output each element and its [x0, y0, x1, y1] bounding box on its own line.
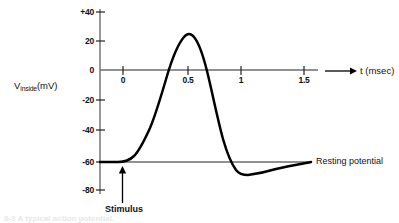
- y-tick-label-20: 20: [60, 37, 94, 46]
- x-tick-label-1: 1: [229, 76, 253, 85]
- y-axis-title: Vinside(mV): [14, 81, 57, 93]
- y-tick-label-neg80: -80: [60, 186, 94, 195]
- resting-potential-label: Resting potential: [316, 157, 383, 166]
- action-potential-curve: [100, 34, 311, 175]
- y-tick-label-0: 0: [60, 66, 94, 75]
- y-axis-title-subscript: inside: [20, 85, 37, 92]
- x-axis-arrow-icon: [325, 68, 357, 75]
- y-tick-label-neg40: -40: [60, 126, 94, 135]
- stimulus-arrow-icon: [119, 166, 126, 203]
- y-tick-label-neg20: -20: [60, 96, 94, 105]
- y-tick-label-40: +40: [60, 8, 94, 17]
- x-tick-label-0: 0: [111, 76, 135, 85]
- x-tick-label-0p5: 0.5: [176, 76, 200, 85]
- x-axis-title: t (msec): [360, 66, 394, 76]
- x-tick-label-1p5: 1.5: [292, 76, 316, 85]
- y-tick-label-neg60: -60: [60, 158, 94, 167]
- figure-caption: 8-3 A typical action potential.: [4, 214, 114, 223]
- action-potential-figure: +40 20 0 -20 -40 -60 -80 0 0.5 1 1.5 Vin…: [0, 0, 399, 223]
- y-axis-title-unit: (mV): [37, 80, 58, 91]
- stimulus-label: Stimulus: [105, 205, 143, 214]
